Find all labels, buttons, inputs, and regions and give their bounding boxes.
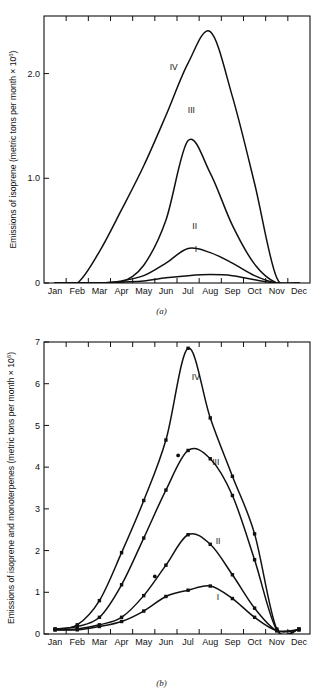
curve-label-III: III: [212, 457, 219, 467]
x-tick-label: Aug: [202, 637, 218, 647]
panel-b-ylabel-group: Emissions of isoprene and monoterpenes (…: [6, 352, 16, 624]
y-tick-label: 5: [35, 421, 40, 431]
x-tick-label: May: [135, 637, 153, 647]
data-marker: [53, 627, 56, 630]
x-tick-label: Apr: [115, 286, 129, 296]
data-marker: [120, 583, 123, 586]
y-tick-label: 2.0: [27, 69, 40, 79]
data-marker: [98, 616, 101, 619]
panel-b-y-axis: 01234567: [35, 338, 49, 639]
x-tick-label: Mar: [92, 286, 108, 296]
data-marker: [120, 616, 123, 619]
x-tick-label: Jul: [182, 637, 194, 647]
x-tick-label: Jan: [48, 286, 63, 296]
data-marker: [142, 499, 145, 502]
data-marker: [120, 620, 123, 623]
x-tick-label: Jun: [159, 286, 174, 296]
data-marker: [142, 594, 145, 597]
data-marker: [142, 609, 145, 612]
y-axis-title-tail: ): [8, 50, 18, 53]
x-tick-label: Dec: [291, 637, 308, 647]
data-marker: [297, 627, 300, 630]
data-marker: [186, 347, 189, 350]
outlier-marker: [176, 454, 180, 458]
y-tick-label: 2: [35, 546, 40, 556]
y-tick-label: 7: [35, 338, 40, 347]
chart-panel-b: Emissions of isoprene and monoterpenes (…: [0, 338, 323, 698]
curve-label-I: I: [195, 244, 197, 254]
panel-a-plot-frame: [44, 16, 310, 283]
panel-a-curve-labels: IIIIIIIV: [170, 62, 197, 253]
x-tick-label: Dec: [291, 286, 308, 296]
curve-III: [55, 449, 299, 635]
panel-b-caption: (b): [0, 678, 323, 688]
panel-a-y-axis-title: Emissions of isoprene (metric tons per m…: [8, 50, 18, 248]
y-axis-title-tail: ): [6, 352, 16, 355]
data-marker: [186, 449, 189, 452]
x-tick-label: Jul: [182, 286, 194, 296]
data-marker: [98, 623, 101, 626]
y-axis-title-main: Emissions of isoprene and monoterpenes (…: [6, 358, 16, 624]
data-marker: [164, 488, 167, 491]
x-tick-label: Feb: [69, 637, 85, 647]
x-tick-label: Nov: [269, 286, 286, 296]
y-tick-label: 1.0: [27, 173, 40, 183]
data-marker: [275, 627, 278, 630]
data-marker: [186, 589, 189, 592]
x-tick-label: Oct: [248, 637, 263, 647]
curve-label-IV: IV: [170, 62, 178, 72]
x-tick-label: Nov: [269, 637, 286, 647]
data-marker: [164, 563, 167, 566]
figure-container: Emissions of isoprene (metric tons per m…: [0, 0, 323, 698]
panel-b-y-axis-title: Emissions of isoprene and monoterpenes (…: [6, 352, 16, 624]
data-marker: [231, 573, 234, 576]
data-marker: [231, 494, 234, 497]
x-tick-label: May: [135, 286, 153, 296]
data-marker: [253, 606, 256, 609]
data-marker: [253, 532, 256, 535]
data-marker: [209, 416, 212, 419]
curve-label-IV: IV: [192, 372, 200, 382]
x-tick-label: Aug: [202, 286, 218, 296]
panel-a-y-axis: 01.02.0: [27, 69, 49, 288]
chart-panel-a: Emissions of isoprene (metric tons per m…: [0, 0, 323, 338]
curve-label-III: III: [188, 105, 195, 115]
x-tick-label: Jan: [48, 637, 63, 647]
data-marker: [253, 558, 256, 561]
x-tick-label: Feb: [69, 286, 85, 296]
data-marker: [120, 551, 123, 554]
curve-label-II: II: [216, 536, 221, 546]
data-marker: [253, 616, 256, 619]
outlier-marker: [153, 575, 157, 579]
x-tick-label: Jun: [159, 637, 174, 647]
x-tick-label: Sep: [224, 286, 240, 296]
panel-a-ylabel-group: Emissions of isoprene (metric tons per m…: [8, 50, 18, 248]
panel-a-caption: (a): [0, 306, 323, 316]
data-marker: [231, 475, 234, 478]
data-marker: [142, 536, 145, 539]
panel-b-curves: [53, 347, 300, 636]
x-tick-label: Sep: [224, 637, 240, 647]
y-tick-label: 0: [35, 278, 40, 288]
data-marker: [209, 584, 212, 587]
curve-label-I: I: [217, 592, 219, 602]
panel-b-svg: Emissions of isoprene and monoterpenes (…: [0, 338, 323, 698]
y-tick-label: 3: [35, 504, 40, 514]
y-tick-label: 1: [35, 587, 40, 597]
data-marker: [231, 597, 234, 600]
curve-II: [55, 534, 299, 632]
x-tick-label: Mar: [92, 637, 108, 647]
data-marker: [164, 438, 167, 441]
data-marker: [164, 595, 167, 598]
y-tick-label: 0: [35, 629, 40, 639]
x-tick-label: Oct: [248, 286, 263, 296]
y-tick-label: 4: [35, 462, 40, 472]
data-marker: [186, 533, 189, 536]
x-tick-label: Apr: [115, 637, 129, 647]
data-marker: [76, 623, 79, 626]
curve-label-II: II: [192, 221, 197, 231]
y-tick-label: 6: [35, 379, 40, 389]
y-axis-title-main: Emissions of isoprene (metric tons per m…: [8, 57, 18, 249]
panel-a-svg: Emissions of isoprene (metric tons per m…: [0, 0, 323, 338]
data-marker: [209, 543, 212, 546]
